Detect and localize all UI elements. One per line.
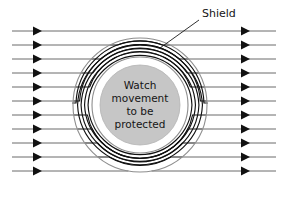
field-arrowhead [241,69,250,78]
field-arrowhead [33,55,42,64]
field-arrowhead [241,111,250,120]
field-arrowhead [241,55,250,64]
shield-label: Shield [202,7,236,20]
core-label-line: protected [115,118,166,130]
field-arrowhead [33,153,42,162]
field-arrowhead [241,139,250,148]
field-arrowhead [33,111,42,120]
shield-leader-line [160,20,199,48]
field-arrowhead [241,125,250,134]
field-arrowhead [33,139,42,148]
shield-diagram-svg: Watchmovementto beprotectedShield [0,0,288,197]
field-arrowhead [241,83,250,92]
field-arrowhead [33,125,42,134]
field-arrowhead [241,167,250,176]
field-arrowhead [33,27,42,36]
field-arrowhead [33,83,42,92]
field-arrowhead [241,153,250,162]
field-arrowhead [241,41,250,50]
core-label-line: movement [112,92,169,104]
field-arrowhead [241,97,250,106]
field-arrowhead [33,97,42,106]
field-arrowhead [241,27,250,36]
field-arrowhead [33,41,42,50]
field-arrowhead [33,69,42,78]
core-label-line: to be [126,105,153,117]
core-label-line: Watch [124,79,157,91]
magnetic-shield-figure: Watchmovementto beprotectedShield [0,0,288,197]
field-arrowhead [33,167,42,176]
